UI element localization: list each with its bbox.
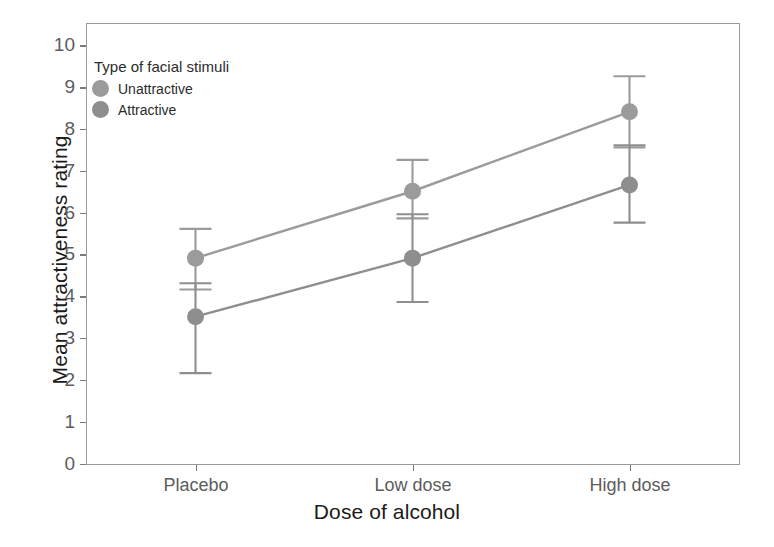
- data-point: [621, 103, 638, 120]
- data-point: [187, 250, 204, 267]
- legend-swatch-unattractive: [92, 80, 109, 97]
- x-tick-label: High dose: [589, 475, 670, 496]
- legend: Type of facial stimuli Unattractive Attr…: [92, 58, 292, 120]
- x-tick-mark: [630, 465, 631, 471]
- x-tick-label: Placebo: [163, 475, 228, 496]
- x-tick-mark: [196, 465, 197, 471]
- data-point: [187, 308, 204, 325]
- legend-item-attractive[interactable]: Attractive: [92, 99, 292, 120]
- data-point: [404, 183, 421, 200]
- data-point: [621, 176, 638, 193]
- x-axis-title: Dose of alcohol: [0, 500, 774, 524]
- legend-item-unattractive[interactable]: Unattractive: [92, 78, 292, 99]
- x-tick-mark: [413, 465, 414, 471]
- data-point: [404, 250, 421, 267]
- legend-swatch-attractive: [92, 101, 109, 118]
- y-axis-title: Mean attractiveness rating: [48, 50, 72, 470]
- legend-label-attractive: Attractive: [118, 102, 176, 118]
- legend-title: Type of facial stimuli: [94, 58, 292, 75]
- legend-label-unattractive: Unattractive: [118, 81, 193, 97]
- chart-figure: Mean attractiveness rating Dose of alcoh…: [0, 0, 774, 547]
- x-tick-label: Low dose: [374, 475, 451, 496]
